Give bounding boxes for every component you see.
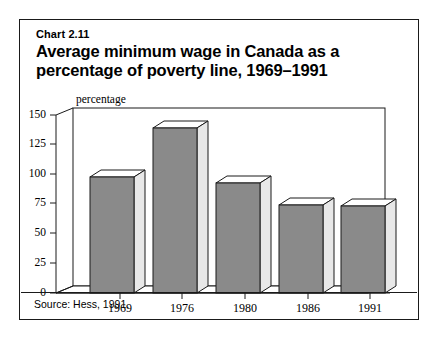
y-tick-label-125: 125 (16, 137, 46, 149)
x-tick-label-1980: 1980 (215, 301, 275, 316)
y-axis-ticks (50, 115, 56, 293)
x-tick-label-1991: 1991 (340, 301, 400, 316)
footer-divider (21, 292, 417, 293)
y-tick-label-75: 75 (16, 196, 46, 208)
bar-chart-plot: percentage (20, 20, 420, 321)
y-tick-label-50: 50 (16, 226, 46, 238)
y-tick-label-150: 150 (16, 108, 46, 120)
bar-1980 (216, 176, 271, 293)
bar-1969 (90, 170, 145, 293)
bar-1986 (279, 198, 334, 293)
y-tick-label-25: 25 (16, 256, 46, 268)
x-tick-label-1986: 1986 (278, 301, 338, 316)
bar-1991 (341, 199, 396, 293)
figure-container: Chart 2.11 Average minimum wage in Canad… (19, 19, 419, 320)
bar-1976 (153, 121, 208, 293)
y-tick-label-100: 100 (16, 167, 46, 179)
x-tick-label-1976: 1976 (152, 301, 212, 316)
chart-canvas (20, 20, 420, 321)
source-note: Source: Hess, 1991. (34, 298, 129, 310)
